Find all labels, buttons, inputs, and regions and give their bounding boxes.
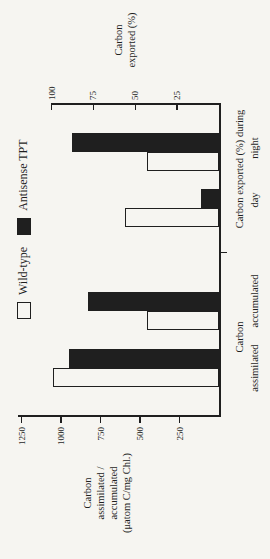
bar-antisense-tpt-carbon-exported-during-day	[201, 189, 219, 208]
bar-chart-rotated: Wild-type Antisense TPT 2505007501000125…	[0, 0, 270, 559]
category-label-day: day	[248, 192, 261, 207]
category-label-accumulated: accumulated	[248, 274, 261, 327]
left-axis-tick-label-250: 250	[174, 427, 186, 471]
category-label-assimilated: assimilated	[248, 344, 261, 391]
legend-item-wild-type: Wild-type	[16, 247, 31, 319]
figure-frame: Wild-type Antisense TPT 2505007501000125…	[0, 0, 270, 559]
bar-wild-type-carbon-exported-during-day	[125, 208, 219, 227]
category-group-label-carbon-exported-during: Carbon exported (%) during	[233, 110, 246, 229]
wild-type-swatch-icon	[17, 302, 31, 319]
bar-antisense-tpt-carbon-exported-during-night	[72, 133, 219, 152]
left-axis-tick-1250	[21, 417, 23, 423]
left-axis-tick-label-500: 500	[134, 427, 146, 471]
right-axis-tick-label-75: 75	[87, 56, 99, 100]
legend-item-antisense-tpt: Antisense TPT	[16, 139, 31, 234]
category-label-night: night	[248, 137, 261, 159]
right-axis-title-line: Carbon	[112, 12, 125, 67]
bar-wild-type-carbon-assimilated	[53, 368, 219, 387]
bar-antisense-tpt-carbon-assimilated	[69, 349, 219, 368]
category-axis-divider-tick	[219, 252, 227, 254]
left-axis-tick-label-1250: 1250	[16, 427, 28, 471]
right-axis-title-line: exported (%)	[125, 12, 138, 67]
legend-label-wild-type: Wild-type	[16, 247, 31, 295]
right-axis-tick-50	[135, 105, 137, 111]
right-axis-tick-label-25: 25	[171, 56, 183, 100]
left-axis-tick-250	[179, 417, 181, 423]
left-axis-title: Carbon assimilated / accumulated (μatom …	[81, 453, 133, 533]
bar-antisense-tpt-carbon-accumulated	[88, 293, 219, 312]
left-value-axis-line	[18, 415, 221, 417]
left-axis-tick-1000	[60, 417, 62, 423]
right-axis-tick-75	[93, 105, 95, 111]
antisense-tpt-swatch-icon	[17, 218, 31, 235]
left-axis-tick-label-1000: 1000	[55, 427, 67, 471]
right-axis-tick-25	[176, 105, 178, 111]
right-axis-tick-label-100: 100	[46, 56, 58, 100]
bar-wild-type-carbon-accumulated	[147, 312, 219, 331]
left-axis-title-line: Carbon	[81, 453, 94, 533]
left-axis-title-line: (μatom C/mg Chl.)	[120, 453, 133, 533]
right-axis-tick-100	[51, 105, 53, 111]
legend: Wild-type Antisense TPT	[16, 139, 31, 319]
category-group-label-carbon: Carbon	[233, 322, 246, 353]
right-axis-title: Carbon exported (%)	[112, 12, 138, 67]
left-axis-tick-750	[100, 417, 102, 423]
left-axis-title-line: accumulated	[107, 453, 120, 533]
bar-wild-type-carbon-exported-during-night	[147, 152, 219, 171]
left-axis-title-line: assimilated /	[94, 453, 107, 533]
left-axis-tick-500	[139, 417, 141, 423]
category-axis-line	[219, 103, 221, 417]
legend-label-antisense-tpt: Antisense TPT	[16, 139, 31, 210]
